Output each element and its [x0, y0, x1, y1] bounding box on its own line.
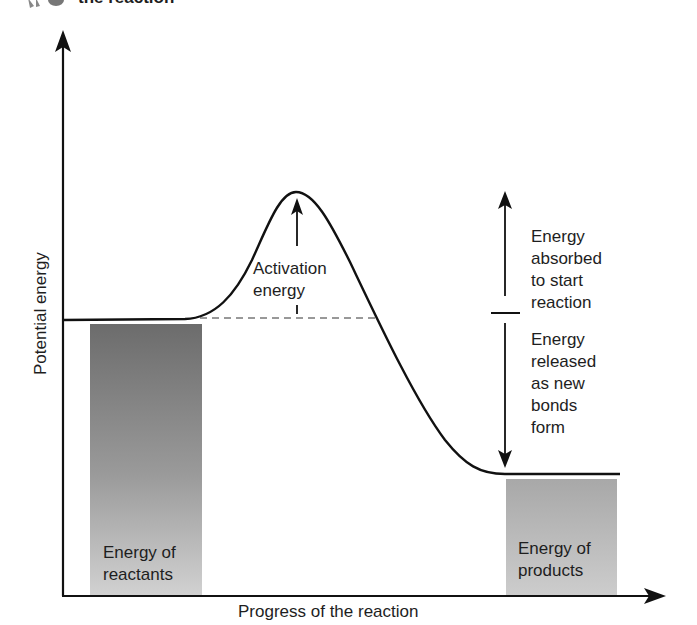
header-fragment-text: the reaction — [78, 0, 174, 7]
energy-diagram: the reaction Activation energy Energy ab… — [0, 0, 697, 625]
activation-energy-label: Activation energy — [253, 259, 331, 300]
energy-absorbed-arrow — [498, 191, 512, 296]
energy-released-arrow — [498, 323, 512, 468]
energy-absorbed-label: Energy absorbed to start reaction — [531, 227, 607, 312]
drop-icon — [48, 0, 64, 6]
y-axis — [55, 30, 71, 596]
y-axis-title: Potential energy — [31, 252, 50, 375]
energy-released-label: Energy released as new bonds form — [531, 330, 601, 437]
x-axis-title: Progress of the reaction — [238, 602, 418, 621]
leaf-icon — [28, 0, 40, 8]
header-fragment: the reaction — [28, 0, 174, 8]
